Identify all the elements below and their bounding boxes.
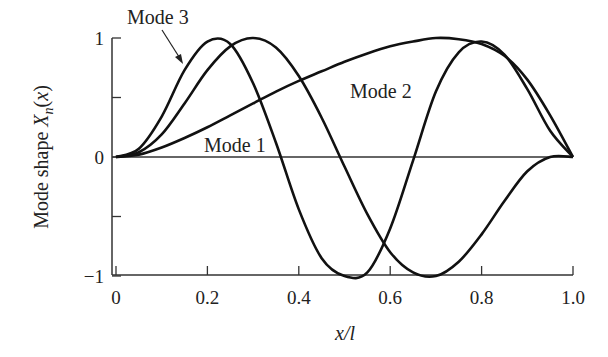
mode-3-label: Mode 3: [127, 6, 189, 28]
curves: [116, 38, 573, 278]
x-tick-label: 0.2: [196, 287, 220, 308]
arrowhead-icon: [175, 54, 183, 64]
mode-1-label: Mode 1: [204, 134, 266, 156]
y-tick-label: −1: [84, 266, 104, 287]
annotations: Mode 3Mode 2Mode 1: [127, 6, 412, 156]
x-tick-label: 0.8: [470, 287, 494, 308]
x-tick-label: 0.4: [287, 287, 311, 308]
y-tick-label: 1: [95, 28, 105, 49]
x-tick-label: 0.6: [378, 287, 402, 308]
x-tick-label: 0: [111, 287, 121, 308]
mode-2-label: Mode 2: [350, 80, 412, 102]
x-tick-label: 1.0: [561, 287, 585, 308]
mode-shape-chart: 00.20.40.60.81.0−101 Mode 3Mode 2Mode 1 …: [0, 0, 608, 357]
mode-3-curve: [116, 38, 573, 278]
axes: 00.20.40.60.81.0−101: [84, 28, 585, 308]
y-axis-label: Mode shape Xn(x): [30, 85, 56, 229]
y-tick-label: 0: [95, 147, 105, 168]
x-axis-label: x/l: [334, 322, 355, 344]
